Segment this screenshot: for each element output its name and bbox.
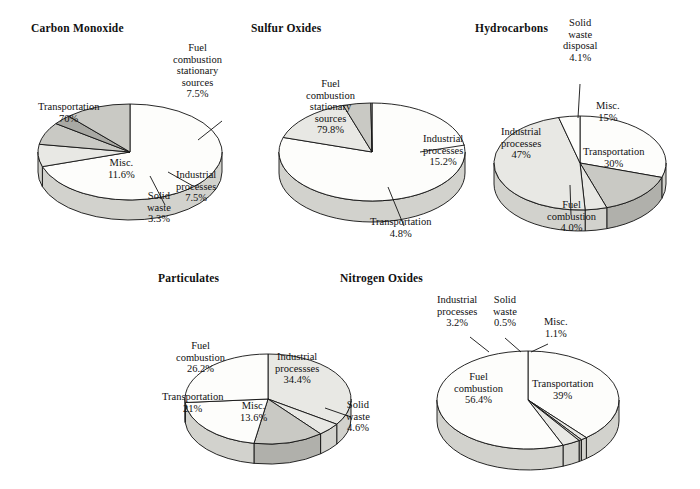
slice-label-text: Fuelcombustion [454, 371, 503, 394]
leader-line-nitrogen-oxides-3 [470, 337, 489, 352]
slice-label-nitrogen-oxides-4: Fuelcombustion56.4% [454, 371, 503, 406]
pie-nitrogen-oxides [0, 0, 700, 489]
slice-label-text: Industrialprocesses [437, 294, 477, 317]
leader-line-nitrogen-oxides-1 [531, 344, 548, 352]
pie-wall-nitrogen-oxides-1 [581, 438, 586, 461]
slice-label-nitrogen-oxides-0: Transportation39% [532, 378, 593, 401]
slice-value-text: 1.1% [545, 328, 567, 339]
slice-value-text: 39% [553, 390, 572, 401]
slice-label-text: Misc. [544, 316, 568, 327]
pie-chart-figure: Carbon MonoxideTransportation70%Fuelcomb… [0, 0, 700, 489]
slice-value-text: 56.4% [465, 394, 492, 405]
slice-value-text: 3.2% [446, 317, 468, 328]
slice-label-text: Transportation [532, 378, 593, 389]
leader-line-nitrogen-oxides-2 [505, 338, 521, 352]
slice-label-text: Solidwaste [493, 294, 517, 317]
slice-label-nitrogen-oxides-1: Misc.1.1% [544, 316, 568, 339]
slice-label-nitrogen-oxides-2: Solidwaste0.5% [493, 294, 517, 329]
slice-value-text: 0.5% [494, 317, 516, 328]
slice-label-nitrogen-oxides-3: Industrialprocesses3.2% [437, 294, 477, 329]
